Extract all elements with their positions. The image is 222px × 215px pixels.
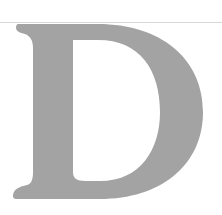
letter-d-glyph — [0, 0, 222, 215]
